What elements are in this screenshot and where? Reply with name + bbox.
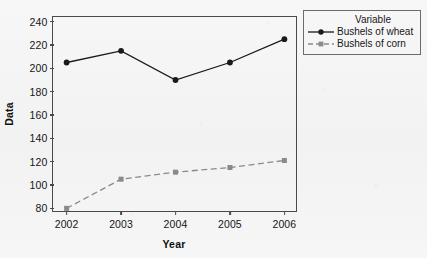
legend-key-square-dashed-icon — [308, 38, 334, 50]
data-point-marker — [64, 206, 69, 211]
legend-item-corn[interactable]: Bushels of corn — [308, 38, 416, 50]
x-tick: 2006 — [272, 211, 296, 230]
data-point-marker — [173, 170, 178, 175]
y-tick: 80 — [36, 202, 54, 214]
y-tick: 160 — [30, 109, 53, 121]
y-tick-label: 220 — [30, 39, 51, 51]
x-tick-label: 2005 — [218, 218, 242, 230]
series-line-square — [67, 161, 285, 209]
series-layer — [53, 17, 298, 213]
data-point-marker — [227, 60, 233, 66]
x-tick: 2003 — [109, 211, 133, 230]
data-point-marker — [282, 158, 287, 163]
y-tick: 220 — [30, 39, 53, 51]
y-tick-label: 120 — [30, 156, 51, 168]
data-point-marker — [119, 177, 124, 182]
plot-area: 80100120140160180200220240 2002200320042… — [52, 16, 297, 212]
legend-title: Variable — [308, 14, 416, 26]
y-tick-label: 100 — [30, 179, 51, 191]
data-point-marker — [64, 60, 70, 66]
legend-label-corn: Bushels of corn — [337, 38, 406, 50]
y-tick-label: 80 — [36, 202, 51, 214]
x-tick-label: 2004 — [164, 218, 188, 230]
data-point-marker — [118, 48, 124, 54]
y-tick: 100 — [30, 179, 53, 191]
y-axis-title: Data — [3, 102, 15, 126]
plot-inner: 80100120140160180200220240 2002200320042… — [53, 17, 296, 211]
series-line-circle — [67, 39, 285, 80]
data-point-marker — [173, 77, 179, 83]
y-tick-label: 180 — [30, 86, 51, 98]
chart-screenshot: Data Year 80100120140160180200220240 200… — [0, 0, 427, 258]
y-tick: 200 — [30, 62, 53, 74]
x-axis-title: Year — [163, 238, 186, 250]
y-tick-label: 160 — [30, 109, 51, 121]
legend-label-wheat: Bushels of wheat — [337, 26, 413, 38]
data-point-marker — [281, 36, 287, 42]
y-tick-label: 240 — [30, 16, 51, 28]
legend-key-circle-solid-icon — [308, 26, 334, 38]
y-tick: 240 — [30, 16, 53, 28]
y-tick: 140 — [30, 132, 53, 144]
y-tick: 120 — [30, 156, 53, 168]
y-tick: 180 — [30, 86, 53, 98]
x-tick: 2002 — [55, 211, 79, 230]
x-tick-label: 2003 — [109, 218, 133, 230]
data-point-marker — [227, 165, 232, 170]
legend-item-wheat[interactable]: Bushels of wheat — [308, 26, 416, 38]
legend: Variable Bushels of wheat Bushels of cor… — [303, 10, 421, 55]
y-tick-label: 140 — [30, 132, 51, 144]
x-tick-label: 2002 — [55, 218, 79, 230]
x-tick-label: 2006 — [272, 218, 296, 230]
x-tick: 2005 — [218, 211, 242, 230]
y-tick-label: 200 — [30, 62, 51, 74]
x-tick: 2004 — [164, 211, 188, 230]
